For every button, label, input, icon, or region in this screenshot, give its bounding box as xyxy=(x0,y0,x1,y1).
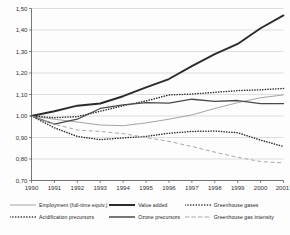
x-tick-label: 1997 xyxy=(185,184,199,191)
legend-label-value-added: Value added xyxy=(138,201,167,209)
legend-swatch-dotted-dark-icon xyxy=(185,201,211,209)
legend-swatch-solid-thick-dark-icon xyxy=(109,201,135,209)
legend-item-employment: Employment (full-time equiv.) xyxy=(10,201,109,209)
x-tick-label: 1993 xyxy=(93,184,107,191)
x-tick-label: 1996 xyxy=(162,184,176,191)
y-tick-label: 1,50 xyxy=(16,5,28,12)
x-tick-label: 1990 xyxy=(25,184,39,191)
y-tick-label: 1,40 xyxy=(16,26,28,33)
x-tick-label: 1998 xyxy=(208,184,222,191)
series-line-ozone-precursors xyxy=(32,99,284,124)
legend-label-acidification-precursors: Acidification precursors xyxy=(39,213,94,221)
x-axis-tick-labels: 1990199119921993199419951996199719981999… xyxy=(25,184,290,192)
y-tick-label: 0,70 xyxy=(16,177,28,184)
legend-swatch-dotted-dark-icon xyxy=(10,213,36,221)
legend-label-employment: Employment (full-time equiv.) xyxy=(39,201,107,209)
legend-swatch-solid-medium-dark-icon xyxy=(109,213,135,221)
data-series-group xyxy=(32,15,284,162)
x-tick-label: 1992 xyxy=(71,184,85,191)
y-tick-label: 0,80 xyxy=(16,155,28,162)
legend-item-acidification-precursors: Acidification precursors xyxy=(10,213,109,221)
legend-item-value-added: Value added xyxy=(109,201,185,209)
legend-swatch-dashed-gray-icon xyxy=(185,213,211,221)
y-tick-label: 1,30 xyxy=(16,48,28,55)
x-tick-label: 20011 xyxy=(276,184,290,192)
y-tick-label: 1,20 xyxy=(16,69,28,76)
chart-legend: Employment (full-time equiv.) Value adde… xyxy=(0,197,290,227)
y-tick-label: 1,10 xyxy=(16,91,28,98)
x-tick-label: 2000 xyxy=(254,184,268,191)
legend-item-ozone-precursors: Ozone precursors xyxy=(109,213,185,221)
legend-label-greenhouse-gases: Greenhouse gases xyxy=(214,201,259,209)
x-tick-label: 1995 xyxy=(139,184,153,191)
legend-item-greenhouse-gas-intensity: Greenhouse gas intensity xyxy=(185,213,284,221)
grid-lines xyxy=(32,9,284,181)
legend-label-ozone-precursors: Ozone precursors xyxy=(138,213,180,221)
x-tick-label: 1994 xyxy=(116,184,130,191)
y-axis-tick-labels: 0,700,800,901,001,101,201,301,401,50 xyxy=(16,5,32,184)
x-tick-label: 1991 xyxy=(48,184,62,191)
y-tick-label: 0,90 xyxy=(16,134,28,141)
series-line-greenhouse-gas-intensity xyxy=(32,116,284,163)
legend-swatch-solid-thin-gray-icon xyxy=(10,201,36,209)
x-tick-label: 1999 xyxy=(231,184,245,191)
y-tick-label: 1,00 xyxy=(16,112,28,119)
legend-row-2: Acidification precursors Ozone precursor… xyxy=(10,211,284,222)
legend-label-greenhouse-gas-intensity: Greenhouse gas intensity xyxy=(214,213,274,221)
chart-figure: 0,700,800,901,001,101,201,301,401,50 199… xyxy=(0,0,290,235)
legend-row-1: Employment (full-time equiv.) Value adde… xyxy=(10,199,284,210)
legend-item-greenhouse-gases: Greenhouse gases xyxy=(185,201,284,209)
